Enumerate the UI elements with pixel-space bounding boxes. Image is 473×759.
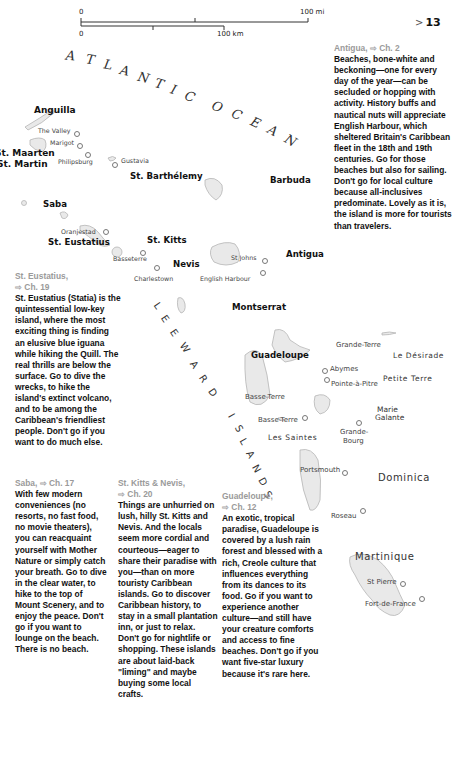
town-english-harbour: English Harbour	[200, 275, 250, 282]
town-gustavia: Gustavia	[121, 157, 149, 164]
antigua-title: Antigua,	[334, 43, 368, 53]
town-abymes: Abymes	[330, 365, 358, 373]
label-galante: Galante	[375, 413, 404, 422]
saba-heading: Saba, ⇨ Ch. 17	[15, 478, 107, 489]
label-basse-terre-region: Basse-Terre	[245, 393, 285, 401]
st-eustatius-chapter-link[interactable]: Ch. 19	[24, 282, 49, 292]
label-nevis: Nevis	[173, 259, 200, 269]
label-martinique: Martinique	[355, 551, 415, 562]
label-anguilla: Anguilla	[34, 105, 76, 115]
saba-description: Saba, ⇨ Ch. 17 With few modern convenien…	[15, 478, 107, 656]
town-fort-de-france: Fort-de-France	[365, 600, 416, 608]
label-guadeloupe: Guadeloupe	[251, 350, 309, 360]
town-dot	[324, 377, 330, 383]
town-grande-bourg-2: Bourg	[343, 437, 364, 445]
town-dot	[85, 152, 91, 158]
town-oranjestad: Oranjestad	[61, 228, 96, 235]
label-les-saintes: Les Saintes	[268, 433, 317, 442]
town-basseterre: Basseterre	[113, 255, 147, 262]
town-philipsburg: Philipsburg	[58, 158, 93, 165]
antigua-text: Beaches, bone-white and beckoning—one fo…	[334, 54, 452, 230]
label-st-martin: St. Martin	[0, 159, 48, 169]
town-dot	[103, 229, 109, 235]
town-dot	[322, 368, 328, 374]
saba-land	[22, 201, 27, 206]
desirade-land	[382, 332, 396, 335]
antigua-chapter-link[interactable]: Ch. 2	[379, 43, 399, 53]
chapter-arrow-icon: ⇨	[15, 282, 22, 292]
town-pointe-a-pitre: Pointe-à-Pitre	[331, 380, 378, 388]
st-kitts-nevis-chapter-link[interactable]: Ch. 20	[127, 489, 152, 499]
label-barbuda: Barbuda	[270, 175, 311, 185]
town-st-johns: St Johns	[231, 254, 256, 261]
town-dot	[419, 596, 425, 602]
town-dot	[154, 265, 160, 271]
label-st-eustatius: St. Eustatius	[48, 237, 110, 247]
st-kitts-nevis-description: St. Kitts & Nevis,⇨ Ch. 20 Things are un…	[118, 478, 218, 700]
antigua-heading: Antigua, ⇨ Ch. 2	[334, 43, 452, 54]
town-the-valley: The Valley	[38, 127, 71, 134]
chapter-arrow-icon: ⇨	[118, 489, 125, 499]
town-grande-bourg-1: Grande-	[340, 428, 368, 436]
marie-galante-land	[314, 395, 330, 414]
st-eustatius-description: St. Eustatius,⇨ Ch. 19 St. Eustatius (St…	[15, 271, 121, 449]
town-dot	[400, 581, 406, 587]
saba-title: Saba,	[15, 478, 37, 488]
town-st-pierre: St Pierre	[367, 578, 397, 586]
guadeloupe-title: Guadeloupe,	[222, 491, 273, 501]
st-eustatius-land	[60, 212, 68, 219]
montserrat-land	[177, 298, 185, 313]
st-kitts-nevis-title: St. Kitts & Nevis,	[118, 478, 185, 488]
barbuda-land	[205, 178, 222, 200]
antigua-description: Antigua, ⇨ Ch. 2 Beaches, bone-white and…	[334, 43, 452, 232]
town-roseau: Roseau	[331, 512, 357, 520]
town-dot	[360, 508, 366, 514]
label-petite-terre: Petite Terre	[383, 374, 432, 383]
label-montserrat: Montserrat	[232, 302, 286, 312]
chapter-arrow-icon: ⇨	[222, 502, 229, 512]
label-le-desirade: Le Désirade	[393, 351, 444, 360]
town-dot	[140, 250, 146, 256]
label-saba: Saba	[43, 199, 67, 209]
label-grande-terre: Grande-Terre	[336, 341, 381, 349]
town-dot	[74, 131, 80, 137]
st-barth-land	[108, 157, 116, 162]
saba-chapter-link[interactable]: Ch. 17	[49, 478, 74, 488]
label-antigua: Antigua	[286, 249, 324, 259]
label-dominica: Dominica	[378, 472, 430, 483]
town-dot	[77, 143, 83, 149]
st-eustatius-title: St. Eustatius,	[15, 271, 68, 281]
guadeloupe-text: An exotic, tropical paradise, Guadeloupe…	[222, 513, 322, 678]
town-basse-terre: Basse-Terre	[258, 416, 298, 424]
saba-text: With few modern conveniences (no resorts…	[15, 489, 107, 654]
town-charlestown: Charlestown	[134, 275, 173, 282]
town-dot	[342, 470, 348, 476]
guadeloupe-chapter-link[interactable]: Ch. 12	[231, 502, 256, 512]
st-eustatius-text: St. Eustatius (Statia) is the quintessen…	[15, 293, 121, 447]
st-eustatius-heading: St. Eustatius,⇨ Ch. 19	[15, 271, 121, 293]
town-dot	[356, 420, 362, 426]
town-marigot: Marigot	[50, 139, 74, 146]
town-dot	[262, 258, 268, 264]
town-dot	[260, 270, 266, 276]
label-st-maarten: St. Maarten	[0, 148, 55, 158]
town-portsmouth: Portsmouth	[300, 466, 340, 474]
guadeloupe-description: Guadeloupe,⇨ Ch. 12 An exotic, tropical …	[222, 491, 326, 680]
chapter-arrow-icon: ⇨	[40, 478, 47, 488]
town-dot	[112, 162, 118, 168]
chapter-arrow-icon: ⇨	[370, 43, 377, 53]
st-kitts-nevis-heading: St. Kitts & Nevis,⇨ Ch. 20	[118, 478, 218, 500]
label-st-barthelemy: St. Barthélemy	[130, 171, 203, 181]
st-kitts-nevis-text: Things are unhurried on lush, hilly St. …	[118, 500, 218, 699]
town-dot	[302, 415, 308, 421]
guadeloupe-heading: Guadeloupe,⇨ Ch. 12	[222, 491, 326, 513]
label-st-kitts: St. Kitts	[147, 235, 187, 245]
